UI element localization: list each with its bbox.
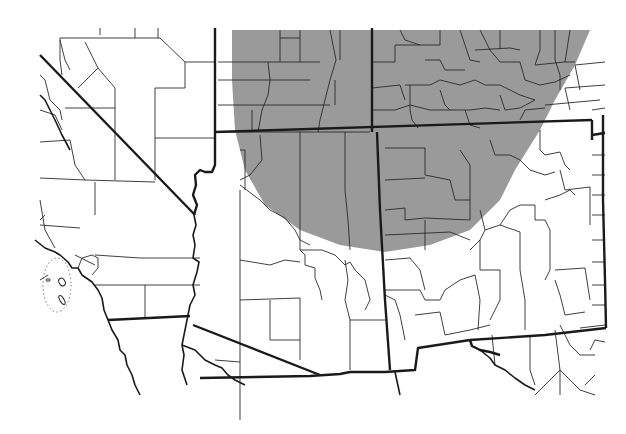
channel-islands: [43, 258, 71, 312]
ca-nv-border: [40, 55, 195, 215]
range-map: [0, 0, 626, 434]
nm-south-border: [200, 340, 470, 378]
islands-enclosure: [43, 258, 71, 312]
az-mexico-border: [193, 325, 320, 375]
rio-grande: [480, 350, 535, 390]
colorado-river: [189, 215, 199, 310]
nm-mexico-border: [470, 340, 500, 355]
nm-tx-border: [603, 115, 606, 328]
nv-ut-border: [193, 28, 215, 215]
nm-tx-south-border: [470, 328, 606, 340]
ca-mexico-border: [108, 316, 190, 320]
